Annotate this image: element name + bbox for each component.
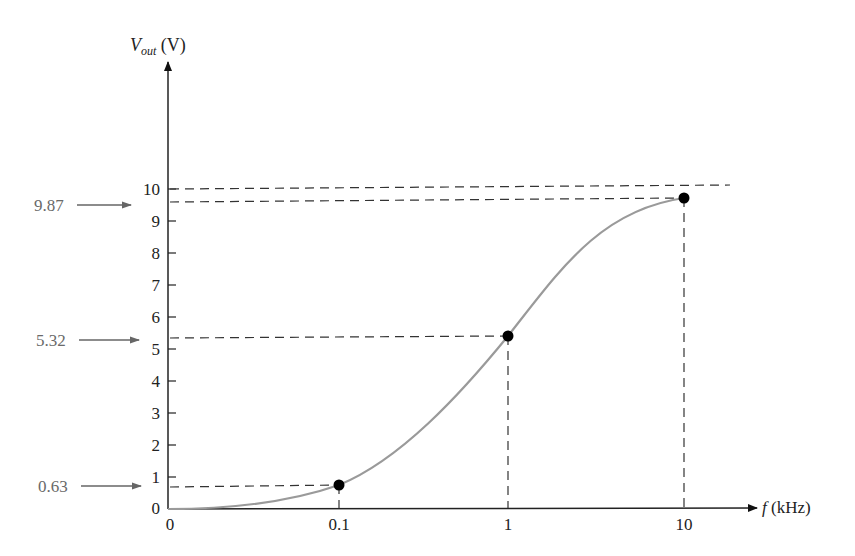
y-tick-label-10: 10 [130,181,160,198]
y-tick-label-0: 0 [130,500,160,517]
x-title-unit: (kHz) [767,498,811,517]
chart-canvas [0,0,855,556]
y-tick-label-5: 5 [130,341,160,358]
data-point-1 [503,331,514,342]
annotation-9.87: 9.87 [34,197,64,214]
data-point-0.1 [334,480,345,491]
annotation-0.63: 0.63 [38,478,68,495]
y-tick-label-6: 6 [130,309,160,326]
y-title-symbol: V [130,35,141,55]
x-tick-label-1: 1 [488,516,528,533]
x-tick-label-0.1: 0.1 [319,516,359,533]
guide-h-532 [170,336,508,338]
x-tick-label-0: 0 [150,516,190,533]
x-tick-label-10: 10 [664,516,704,533]
guide-h-987 [170,198,684,202]
y-tick-label-8: 8 [130,245,160,262]
data-point-10 [679,193,690,204]
y-tick-label-4: 4 [130,373,160,390]
x-axis [168,508,757,509]
vout-curve [168,198,684,509]
y-tick-label-7: 7 [130,277,160,294]
y-title-subscript: out [141,44,156,58]
y-title-unit: (V) [156,35,186,55]
x-axis-title: f (kHz) [762,499,811,516]
y-tick-label-1: 1 [130,469,160,486]
y-tick-label-3: 3 [130,405,160,422]
y-axis-title: Vout (V) [130,36,186,54]
y-tick-label-9: 9 [130,213,160,230]
guide-lines [170,185,730,508]
y-tick-label-2: 2 [130,437,160,454]
y-ticks [168,189,176,477]
asymptote-line [170,185,730,189]
guide-h-063 [170,485,339,487]
annotation-5.32: 5.32 [36,332,66,349]
